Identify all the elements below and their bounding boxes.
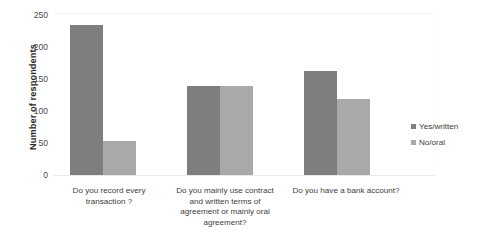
- legend-swatch-icon: [411, 124, 416, 129]
- y-tick-250: 250: [18, 11, 48, 20]
- category-label-2: Do you have a bank account?: [283, 186, 409, 197]
- category-label-1: Do you mainly use contract and written t…: [165, 186, 285, 228]
- category-label-1-line2: and written terms of: [165, 197, 285, 208]
- bar-2-0: [304, 71, 337, 175]
- y-tick-0: 0: [18, 171, 48, 180]
- y-tick-100: 100: [18, 107, 48, 116]
- bar-0-1: [103, 141, 136, 175]
- category-label-1-line4: agreement?: [165, 218, 285, 229]
- category-label-0-line1: Do you record every: [55, 186, 163, 197]
- bar-chart: Number of respondents 250 200 150 100 50…: [0, 0, 490, 241]
- bar-1-1: [220, 86, 253, 175]
- legend-item-no-oral: No/oral: [411, 138, 487, 147]
- category-label-1-line1: Do you mainly use contract: [165, 186, 285, 197]
- bar-group-1: [187, 13, 273, 175]
- bar-2-1: [337, 99, 370, 175]
- legend-swatch-icon: [411, 140, 416, 145]
- chart-legend: Yes/written No/oral: [411, 122, 487, 154]
- plot-area: [54, 13, 435, 175]
- y-axis-ticks: 250 200 150 100 50 0: [18, 0, 48, 241]
- legend-label-no-oral: No/oral: [419, 138, 445, 147]
- category-label-0: Do you record every transaction ?: [55, 186, 163, 207]
- bar-group-0: [70, 13, 156, 175]
- category-label-2-line1: Do you have a bank account?: [283, 186, 409, 197]
- legend-label-yes-written: Yes/written: [419, 122, 458, 131]
- bar-0-0: [70, 25, 103, 175]
- y-tick-150: 150: [18, 75, 48, 84]
- y-tick-200: 200: [18, 43, 48, 52]
- bar-group-2: [304, 13, 390, 175]
- y-tick-50: 50: [18, 139, 48, 148]
- category-label-0-line2: transaction ?: [55, 197, 163, 208]
- bar-1-0: [187, 86, 220, 175]
- category-label-1-line3: agreement or mainly oral: [165, 207, 285, 218]
- x-axis-line: [54, 175, 435, 176]
- legend-item-yes-written: Yes/written: [411, 122, 487, 131]
